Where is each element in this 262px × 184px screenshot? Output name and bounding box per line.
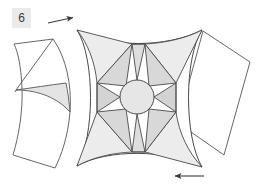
center-circle — [120, 80, 154, 114]
left-piece-chord-lower — [15, 90, 16, 92]
geometric-diagram — [0, 0, 262, 184]
left-detached-piece — [13, 39, 70, 168]
figure-canvas: 6 — [0, 0, 262, 184]
top-rotation-arrow — [48, 18, 73, 24]
